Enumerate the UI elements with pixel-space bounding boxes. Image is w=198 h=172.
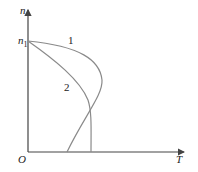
origin-label: O: [18, 153, 26, 165]
plot-canvas: [0, 0, 198, 172]
curve-1-label: 1: [68, 34, 74, 46]
diagram: n n1 1 2 O T: [0, 0, 198, 172]
n1-tick-label: n1: [18, 34, 28, 49]
x-axis-label: T: [176, 153, 182, 165]
y-axis-label: n: [20, 4, 26, 16]
n1-subscript: 1: [24, 40, 28, 49]
curve-2-label: 2: [64, 81, 70, 93]
curve-2: [28, 41, 91, 152]
